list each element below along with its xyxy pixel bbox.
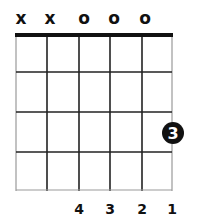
finger-number-string-2: 2: [137, 201, 147, 216]
string-marker-2: o: [139, 8, 151, 28]
string-marker-5: x: [45, 8, 56, 28]
nut: [15, 33, 173, 37]
fret-position-indicator: 3: [162, 122, 184, 144]
string-marker-6: x: [16, 8, 27, 28]
finger-numbers: 4 3 2 1: [74, 201, 177, 216]
finger-number-string-3: 3: [105, 201, 115, 216]
fretboard-grid: [15, 33, 173, 191]
finger-number-string-1: 1: [167, 201, 177, 216]
string-marker-3: o: [108, 8, 120, 28]
finger-number-string-4: 4: [74, 201, 84, 216]
string-marker-4: o: [78, 8, 90, 28]
fret-position-label: 3: [167, 124, 178, 143]
chord-diagram: x x o o o 3 4 3 2 1: [0, 0, 198, 216]
string-markers: x x o o o: [16, 8, 151, 28]
